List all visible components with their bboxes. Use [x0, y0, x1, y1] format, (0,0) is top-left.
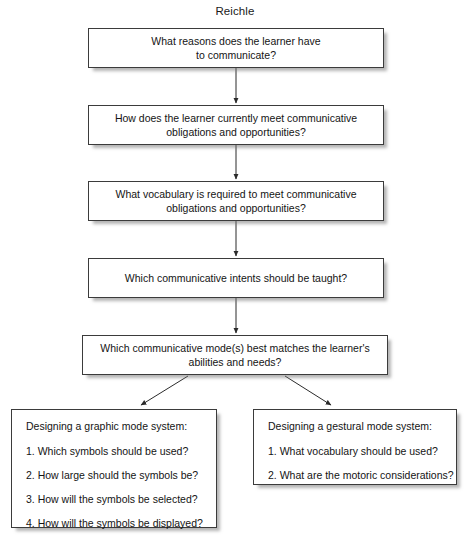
node-text-line: abilities and needs? [83, 355, 387, 369]
node-text-line: Which communicative intents should be ta… [89, 271, 383, 285]
flowchart-node-current-meet: How does the learner currently meet comm… [88, 105, 384, 145]
edge-n5-n6 [141, 376, 188, 405]
node-text-line: How does the learner currently meet comm… [89, 111, 383, 125]
node-text-line: Which communicative mode(s) best matches… [83, 341, 387, 355]
flowchart-node-intents-taught: Which communicative intents should be ta… [88, 258, 384, 298]
flowchart-node-mode-match: Which communicative mode(s) best matches… [82, 335, 388, 375]
node-list-item: 4. How will the symbols be displayed? [26, 516, 216, 530]
node-text-line: What reasons does the learner have [89, 34, 383, 48]
flowchart-node-vocabulary-required: What vocabulary is required to meet comm… [88, 181, 384, 221]
node-list-item: 3. How will the symbols be selected? [26, 492, 216, 506]
edge-n5-n7 [285, 376, 331, 405]
node-text-line: obligations and opportunities? [89, 125, 383, 139]
node-text-line: obligations and opportunities? [89, 201, 383, 215]
flowchart-node-reasons: What reasons does the learner have to co… [88, 28, 384, 68]
flowchart-node-gestural-mode-system: Designing a gestural mode system: 1. Wha… [253, 409, 457, 485]
node-list-item: 2. How large should the symbols be? [26, 468, 216, 482]
node-heading: Designing a gestural mode system: [268, 419, 456, 433]
node-text-line: What vocabulary is required to meet comm… [89, 187, 383, 201]
node-list-item: 1. Which symbols should be used? [26, 444, 216, 458]
node-list-item: 1. What vocabulary should be used? [268, 444, 456, 458]
node-heading: Designing a graphic mode system: [26, 419, 216, 433]
flowchart-root: Reichle What reasons does the learner ha… [0, 0, 470, 548]
node-list-item: 2. What are the motoric considerations? [268, 468, 456, 482]
flowchart-node-graphic-mode-system: Designing a graphic mode system: 1. Whic… [11, 409, 217, 528]
node-text-line: to communicate? [89, 48, 383, 62]
page-title: Reichle [0, 5, 470, 17]
